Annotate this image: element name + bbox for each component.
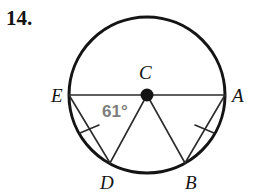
- tick-mark-chord-ED: [80, 125, 99, 133]
- vertex-label-D: D: [100, 173, 114, 192]
- angle-measure-label: 61°: [102, 103, 128, 120]
- problem-figure-page: 14. E A D B C 61°: [0, 0, 262, 195]
- circle-diagram: [0, 0, 262, 195]
- vertex-label-A: A: [232, 86, 244, 105]
- center-point-dot: [141, 89, 154, 102]
- center-label-C: C: [139, 63, 152, 82]
- vertex-label-E: E: [51, 86, 63, 105]
- segment-radius-CB: [147, 95, 185, 163]
- tick-mark-chord-AB: [195, 125, 214, 133]
- vertex-label-B: B: [185, 173, 197, 192]
